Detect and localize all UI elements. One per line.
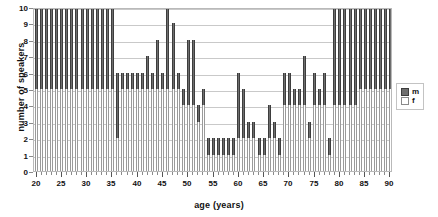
bar-segment-f [116,138,119,171]
x-axis-tick-minor [46,172,47,175]
x-axis-tick-label: 20 [32,179,41,188]
bar-segment-m [166,8,169,89]
bar-stack [101,8,104,171]
bar-segment-m [126,73,129,89]
x-axis-tick-label: 50 [183,179,192,188]
bar-segment-m [318,89,321,105]
bar-segment-m [81,8,84,89]
bar-segment-m [141,73,144,89]
x-axis-tick-minor [359,172,360,175]
x-axis-tick-minor [202,172,203,175]
bar-stack [323,8,326,171]
x-axis-tick-major [86,172,87,177]
x-axis-tick-minor [384,172,385,175]
bar-stack [131,8,134,171]
bar-segment-m [182,89,185,105]
bar-segment-f [192,105,195,171]
bar-segment-f [101,89,104,171]
legend-swatch-m [401,88,409,96]
bar-segment-m [156,40,159,89]
x-axis-tick-minor [319,172,320,175]
bar-stack [136,8,139,171]
bar-segment-f [283,105,286,171]
bar-segment-f [313,105,316,171]
x-axis-tick-minor [218,172,219,175]
bar-stack [197,8,200,171]
bar-stack [126,8,129,171]
bar-stack [172,8,175,171]
x-axis-tick-label: 65 [259,179,268,188]
bar-stack [293,8,296,171]
bar-stack [187,8,190,171]
bar-segment-m [293,89,296,105]
bar-stack [222,8,225,171]
bar-stack [333,8,336,171]
bar-segment-m [207,138,210,154]
bar-segment-f [45,89,48,171]
x-axis-title: age (years) [0,200,438,210]
bar-segment-m [197,105,200,121]
x-axis-tick-minor [283,172,284,175]
bar-segment-f [268,138,271,171]
bar-segment-f [166,89,169,171]
bar-segment-f [126,89,129,171]
bar-stack [182,8,185,171]
bar-segment-m [161,73,164,89]
bar-segment-m [258,138,261,154]
bar-segment-f [121,89,124,171]
bar-segment-m [384,8,387,89]
x-axis-tick-minor [248,172,249,175]
bar-segment-m [40,8,43,89]
bar-segment-m [45,8,48,89]
bar-segment-m [116,73,119,139]
y-axis-tick-label: 7 [24,53,28,62]
y-axis-tick-label: 6 [24,70,28,79]
chart-figure: number of speakers 012345678910 20253035… [0,0,438,217]
bar-segment-m [359,8,362,89]
x-axis-tick-minor [41,172,42,175]
bar-stack [374,8,377,171]
bar-segment-m [227,138,230,154]
bar-segment-f [278,155,281,171]
bar-segment-m [252,122,255,138]
bar-segment-m [379,8,382,89]
bar-segment-f [333,105,336,171]
x-axis-tick-minor [91,172,92,175]
bar-segment-f [354,105,357,171]
bar-segment-f [242,138,245,171]
x-axis-tick-minor [177,172,178,175]
bar-stack [116,8,119,171]
bar-stack [192,8,195,171]
x-axis-tick-minor [228,172,229,175]
bar-stack [121,8,124,171]
bar-series-group [34,9,391,171]
bar-segment-m [268,105,271,138]
bar-segment-m [263,138,266,154]
bar-segment-m [369,8,372,89]
bar-stack [313,8,316,171]
bar-segment-m [101,8,104,89]
bar-stack [65,8,68,171]
x-axis-tick-minor [116,172,117,175]
bar-segment-f [349,105,352,171]
legend-swatch-f [401,97,409,105]
bar-segment-f [35,89,38,171]
x-axis-tick-minor [106,172,107,175]
bar-segment-f [247,138,250,171]
bar-stack [389,8,392,171]
x-axis-tick-minor [349,172,350,175]
legend-item-f: f [401,97,419,105]
x-axis-tick-label: 55 [209,179,218,188]
bar-segment-m [172,23,175,89]
bar-segment-f [55,89,58,171]
bar-stack [379,8,382,171]
bar-segment-m [364,8,367,89]
x-axis-tick-major [339,172,340,177]
y-axis-tick-label: 0 [24,168,28,177]
bar-stack [273,8,276,171]
y-axis-tick-label: 5 [24,86,28,95]
bar-segment-f [75,89,78,171]
bar-segment-m [202,89,205,105]
legend-item-m: m [401,88,419,96]
bar-segment-m [328,138,331,154]
